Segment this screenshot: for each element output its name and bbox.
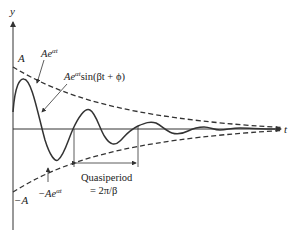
damped-sine-curve: [13, 79, 278, 160]
quasiperiod-label: Quasiperiod: [81, 172, 133, 183]
upper-envelope-label: Aeαt: [40, 47, 59, 59]
quasiperiod-value: = 2π/β: [90, 185, 117, 196]
lower-envelope-curve: [13, 131, 281, 193]
upper-envelope-curve: [13, 67, 281, 128]
negative-amplitude-label: −A: [14, 194, 28, 206]
y-axis-label: y: [9, 5, 15, 17]
t-axis-label: t: [284, 123, 288, 135]
damped-sine-pointer: [42, 84, 67, 112]
damped-oscillation-diagram: y t A −A Aeαt Aeαtsin(βt + ϕ) −Aeαt Quas…: [0, 0, 292, 240]
amplitude-label: A: [17, 52, 25, 64]
upper-envelope-pointer: [37, 60, 44, 83]
damped-sine-label: Aeαtsin(βt + ϕ): [63, 70, 125, 83]
lower-envelope-label: −Aeαt: [38, 187, 63, 199]
